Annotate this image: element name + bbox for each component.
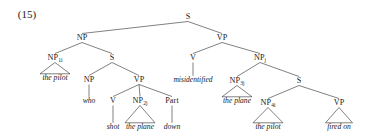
tree-edge-NPa-S1 [82,43,112,54]
tree-node-np: NP [77,34,88,42]
terminal-triangle [125,106,155,123]
node-label: NP [254,53,265,62]
tree-edge-VPb-V2 [113,85,139,97]
tree-node-np-4i: NP4i [260,99,275,107]
terminal-word: misidentified [173,76,212,84]
tree-edge-S0-VPa [188,22,222,34]
terminal-word: the pilot [42,74,67,82]
terminal-word: who [83,97,96,105]
terminal-word: fired on [327,123,351,131]
node-label: NP [132,96,143,105]
tree-node-s: S [110,54,115,62]
tree-node-v: V [190,54,196,62]
tree-edge-NPj-NP3j [237,63,260,77]
tree-node-vp: VP [334,99,345,107]
tree-node-np-3j: NP3j [229,77,244,85]
tree-edge-VPb-NP2j [139,85,140,97]
node-label: NP [77,33,88,42]
tree-edge-VPa-NPj [222,43,260,54]
tree-edge-S1-VPb [112,63,139,76]
tree-edge-S1-NPwho [89,63,112,76]
node-subscript: 3j [240,80,244,86]
tree-node-np-1i: NP1i [47,54,62,62]
node-subscript: j [265,57,267,63]
node-label: Part [165,96,179,105]
node-label: S [186,12,191,21]
terminal-word: the plane [223,97,251,105]
tree-node-np-j: NPj [254,54,266,62]
terminal-word: down [164,123,180,131]
node-label: NP [84,75,95,84]
node-label: V [110,96,116,105]
syntax-tree-figure: (15) SNPVPNP1iSVNPjNPVPNP3jSVNP2jPartNP4… [0,0,376,140]
node-label: NP [47,53,58,62]
tree-edge-VPa-V1 [193,43,222,54]
node-subscript: 2j [143,100,147,106]
node-label: NP [229,76,240,85]
node-label: VP [217,33,228,42]
node-label: VP [134,75,145,84]
tree-node-np-2j: NP2j [132,97,147,105]
tree-node-s: S [297,77,302,85]
terminal-triangle [326,108,353,123]
tree-edge-S2-VPc [299,86,339,99]
tree-node-part: Part [165,97,179,105]
tree-edge-NPj-S2 [260,63,299,77]
node-subscript: 4i [271,102,275,108]
terminal-word: shot [107,123,120,131]
tree-edge-S0-NPa [82,22,188,34]
terminal-word: the plane [126,123,154,131]
node-label: VP [334,98,345,107]
node-label: S [110,53,115,62]
tree-node-vp: VP [217,34,228,42]
terminal-triangle [40,63,70,74]
node-subscript: 1i [58,57,62,63]
terminal-triangle [222,86,252,97]
tree-node-s: S [186,13,191,21]
node-label: NP [260,98,271,107]
example-number: (15) [18,9,36,20]
tree-node-vp: VP [134,76,145,84]
terminal-triangle [253,108,283,123]
node-label: V [190,53,196,62]
tree-node-v: V [110,97,116,105]
tree-edge-S2-NP4i [268,86,299,99]
terminal-word: the pilot [255,123,280,131]
tree-edge-VPb-Part [139,85,172,97]
node-label: S [297,76,302,85]
tree-edge-NPa-NP1i [55,43,82,54]
tree-node-np: NP [84,76,95,84]
